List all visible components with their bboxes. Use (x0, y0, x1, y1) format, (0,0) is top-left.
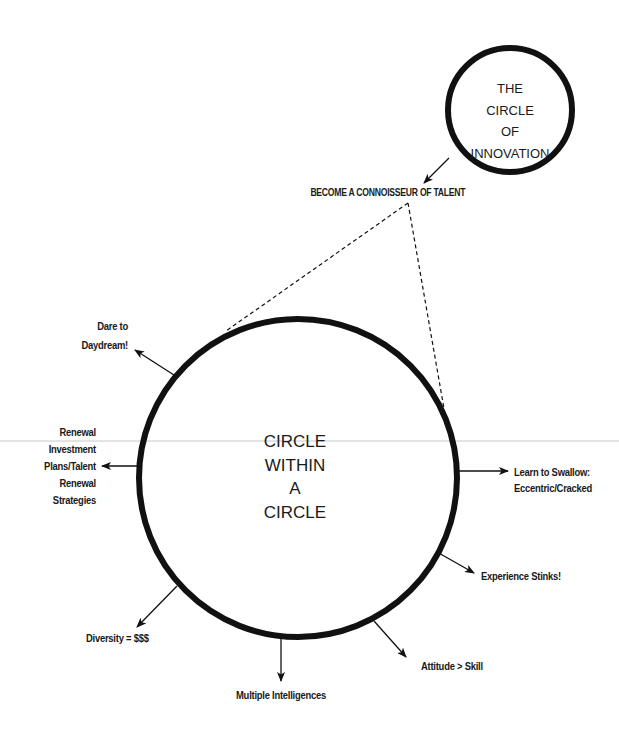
spoke-label-swallow: Learn to Swallow: Eccentric/Cracked (514, 464, 604, 496)
spoke-label-experience: Experience Stinks! (481, 569, 571, 583)
spoke-attitude-arrow (374, 621, 406, 657)
spoke-label-line: Plans/Talent (17, 458, 96, 475)
small-circle-title: THE CIRCLE OF INNOVATION (448, 78, 572, 164)
big-circle-line: A (230, 477, 360, 501)
spoke-diversity-arrow (137, 586, 177, 627)
spoke-label-line: Multiple Intelligences (228, 688, 335, 702)
spoke-label-line: Strategies (17, 492, 96, 509)
small-circle-line: THE (448, 78, 572, 100)
spoke-label-line: Learn to Swallow: (514, 464, 604, 480)
small-circle-line: CIRCLE (448, 100, 572, 122)
spoke-label-line: Eccentric/Cracked (514, 480, 604, 496)
spoke-label-line: Diversity = $$$ (86, 631, 168, 645)
connoisseur-label: BECOME A CONNOISSEUR OF TALENT (310, 185, 441, 199)
arrow-to-connoisseur (424, 158, 449, 183)
spoke-label-line: Daydream! (46, 336, 128, 355)
spoke-experience-arrow (437, 552, 474, 573)
spoke-label-intelligences: Multiple Intelligences (228, 688, 335, 702)
spoke-label-line: Experience Stinks! (481, 569, 571, 583)
spoke-label-renewal: Renewal Investment Plans/Talent Renewal … (17, 424, 96, 509)
spoke-label-line: Renewal (17, 475, 96, 492)
spoke-label-diversity: Diversity = $$$ (86, 631, 168, 645)
big-circle-line: CIRCLE (230, 501, 360, 525)
spoke-label-line: Renewal (17, 424, 96, 441)
big-circle-title: CIRCLE WITHIN A CIRCLE (230, 430, 360, 524)
spoke-label-line: Dare to (46, 317, 128, 336)
spoke-label-line: Investment (17, 441, 96, 458)
big-circle-line: CIRCLE (230, 430, 360, 454)
big-circle-line: WITHIN (230, 454, 360, 478)
spoke-label-attitude: Attitude > Skill (421, 659, 503, 673)
circle-of-innovation-diagram: THE CIRCLE OF INNOVATION BECOME A CONNOI… (0, 0, 619, 738)
small-circle-line: INNOVATION (448, 143, 572, 165)
dashed-line-left (226, 203, 408, 331)
spoke-daydream-arrow (135, 350, 174, 375)
spoke-label-line: Attitude > Skill (421, 659, 503, 673)
small-circle-line: OF (448, 121, 572, 143)
spoke-label-daydream: Dare to Daydream! (46, 317, 128, 355)
